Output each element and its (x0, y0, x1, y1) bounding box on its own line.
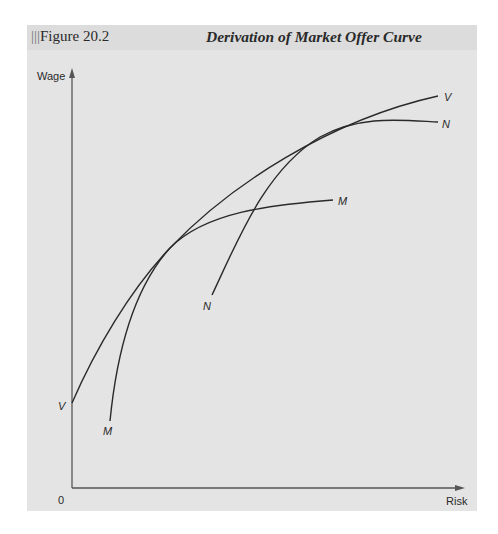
y-axis-label: Wage (37, 70, 65, 82)
label-v-end: V (444, 91, 453, 103)
label-m-end: M (338, 195, 348, 207)
label-n-end: N (442, 118, 450, 130)
curve-v (72, 96, 438, 403)
origin-label: 0 (58, 494, 64, 506)
curve-m (110, 200, 333, 421)
curve-n (212, 120, 438, 295)
label-m-start: M (103, 425, 113, 437)
chart-canvas: Wage Risk 0 V V M M N N (0, 0, 498, 534)
label-n-start: N (203, 300, 211, 312)
x-axis-arrow-icon (455, 485, 465, 491)
y-axis-arrow-icon (69, 68, 75, 78)
axes: Wage Risk 0 (37, 68, 468, 507)
x-axis-label: Risk (446, 495, 468, 507)
label-v-start: V (58, 400, 67, 412)
